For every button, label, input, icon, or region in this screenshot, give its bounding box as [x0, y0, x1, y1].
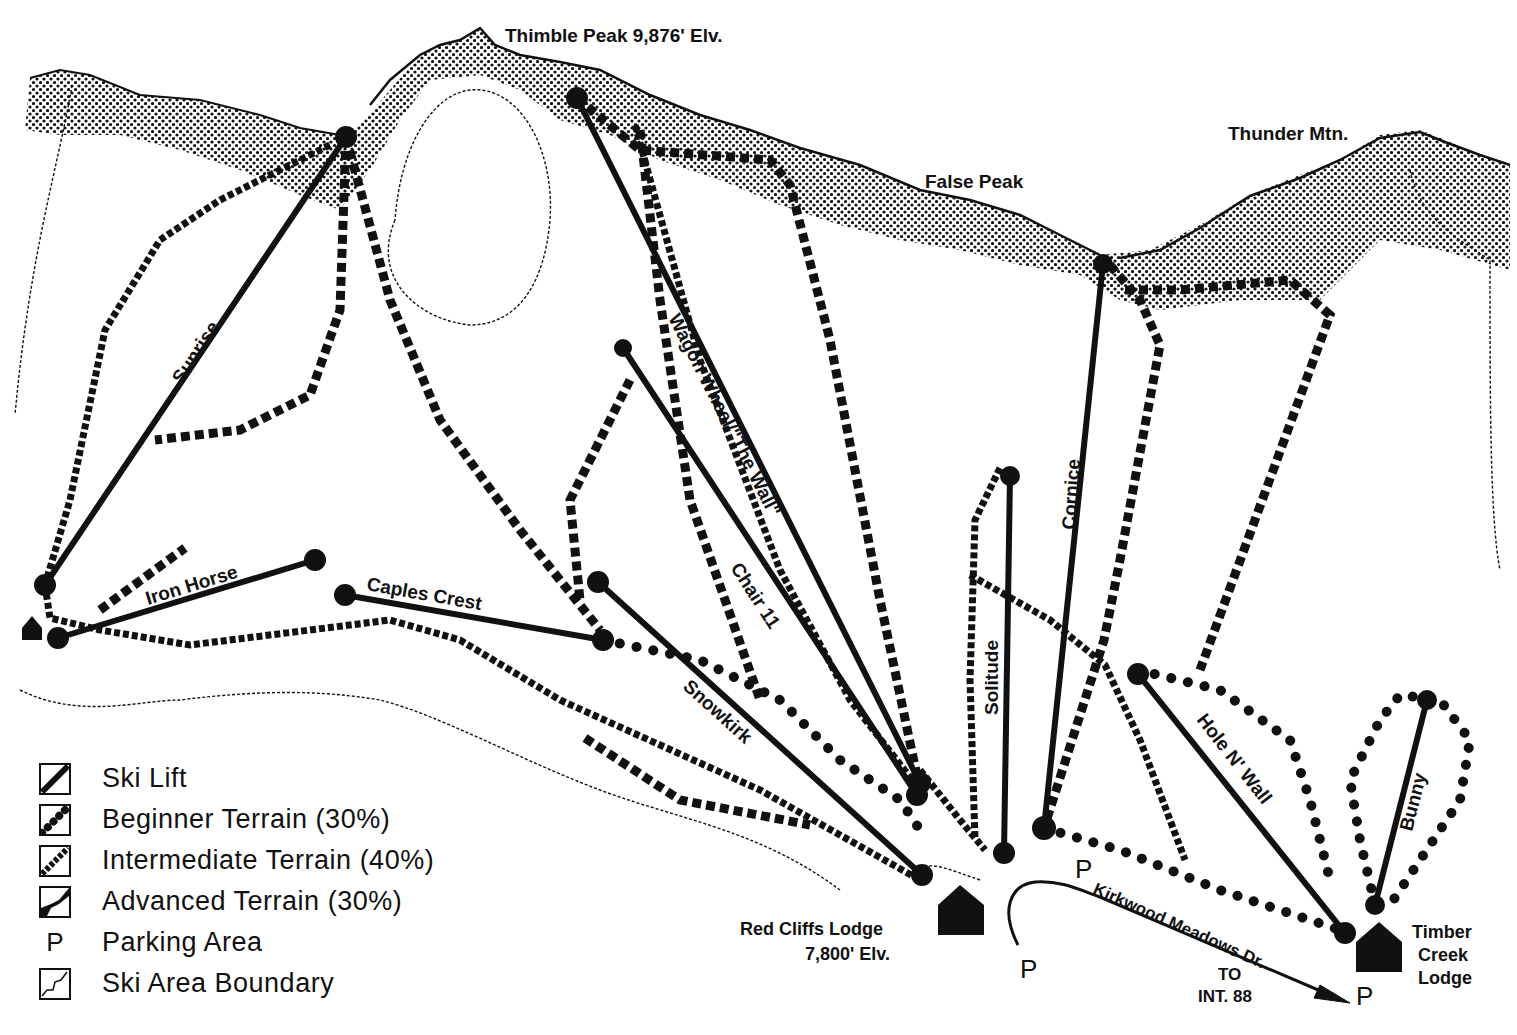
lift-label-cornice: Cornice: [1058, 458, 1084, 530]
parking-icon: P: [38, 926, 72, 960]
lift-label-wagon-wheel: Wagon Wheel/"The Wall": [664, 310, 785, 520]
timber-creek-label-3: Lodge: [1418, 968, 1472, 988]
thunder-mtn-label: Thunder Mtn.: [1228, 123, 1348, 144]
beginner-trails: [603, 640, 1470, 930]
legend-item-ski-lift: Ski Lift: [38, 758, 558, 799]
legend-label: Ski Lift: [102, 763, 187, 794]
road-destination-line1: TO: [1218, 965, 1241, 984]
red-cliffs-lodge-label: Red Cliffs Lodge: [740, 919, 883, 939]
lift-label-chair-11: Chair 11: [727, 559, 785, 633]
thimble-peak-label: Thimble Peak 9,876' Elv.: [505, 25, 723, 46]
map-legend: Ski Lift Beginner Terrain (30%) Intermed…: [38, 758, 558, 1004]
legend-label: Intermediate Terrain (40%): [102, 845, 434, 876]
intermediate-terrain-icon: [38, 844, 72, 878]
timber-creek-label-1: Timber: [1412, 922, 1472, 942]
red-cliffs-lodge-icon: [938, 885, 984, 935]
parking-marker: P: [1020, 954, 1037, 984]
road-destination-line2: INT. 88: [1198, 987, 1252, 1006]
legend-item-beginner: Beginner Terrain (30%): [38, 799, 558, 840]
timber-creek-label-2: Creek: [1418, 945, 1469, 965]
legend-label: Ski Area Boundary: [102, 968, 334, 999]
beginner-terrain-icon: [38, 803, 72, 837]
advanced-terrain-icon: [38, 885, 72, 919]
red-cliffs-elevation-label: 7,800' Elv.: [805, 944, 890, 964]
legend-label: Advanced Terrain (30%): [102, 886, 402, 917]
parking-marker: P: [1075, 854, 1092, 884]
lodge-small-icon: [22, 616, 42, 640]
road: [1009, 882, 1350, 1003]
mountain-ridge: [25, 28, 1510, 310]
false-peak-label: False Peak: [925, 171, 1024, 192]
parking-marker: P: [1356, 981, 1373, 1011]
legend-item-intermediate: Intermediate Terrain (40%): [38, 840, 558, 881]
boundary-icon: [38, 967, 72, 1001]
lift-label-solitude: Solitude: [981, 640, 1002, 715]
ski-lift-icon: [38, 762, 72, 796]
legend-label: Beginner Terrain (30%): [102, 804, 390, 835]
lift-label-sunrise: Sunrise: [168, 317, 224, 387]
legend-item-boundary: Ski Area Boundary: [38, 963, 558, 1004]
legend-label: Parking Area: [102, 927, 263, 958]
legend-item-advanced: Advanced Terrain (30%): [38, 881, 558, 922]
timber-creek-lodge-icon: [1356, 922, 1402, 972]
legend-item-parking: P Parking Area: [38, 922, 558, 963]
